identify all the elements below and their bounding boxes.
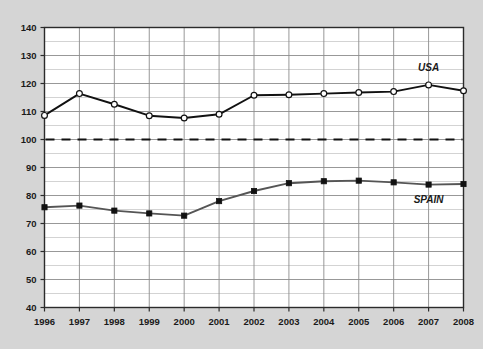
y-axis-tick-label: 140	[21, 22, 37, 33]
data-point-spain-2001	[216, 199, 221, 204]
y-axis-tick-label: 90	[26, 162, 37, 173]
data-point-usa-2001	[216, 111, 222, 117]
y-axis-tick-label: 60	[26, 246, 37, 257]
data-point-usa-1999	[146, 113, 152, 119]
y-axis-tick-label: 40	[26, 302, 37, 313]
data-point-spain-1996	[42, 205, 47, 210]
data-point-usa-2008	[461, 88, 467, 94]
y-axis-tick-label: 70	[26, 218, 37, 229]
data-point-usa-2003	[286, 92, 292, 98]
x-axis-tick-label: 1998	[104, 316, 125, 327]
data-point-usa-2007	[426, 82, 432, 88]
y-axis-tick-label: 50	[26, 274, 37, 285]
x-axis-tick-label: 1997	[69, 316, 90, 327]
x-axis-tick-label: 2005	[348, 316, 370, 327]
x-axis-tick-label: 2008	[453, 316, 474, 327]
x-axis-tick-label: 2003	[278, 316, 299, 327]
data-point-spain-2007	[426, 182, 431, 187]
x-axis-tick-label: 2001	[209, 316, 231, 327]
x-axis-tick-label: 2007	[418, 316, 439, 327]
data-point-usa-2004	[321, 91, 327, 97]
x-axis-tick-label: 2006	[383, 316, 404, 327]
data-point-usa-2005	[356, 90, 362, 96]
y-axis-tick-label: 80	[26, 190, 37, 201]
data-point-spain-1998	[112, 208, 117, 213]
line-chart: 405060708090100110120130140 199619971998…	[0, 0, 483, 349]
data-point-usa-1996	[42, 113, 48, 119]
y-axis-tick-label: 100	[21, 134, 37, 145]
x-axis-tick-label: 2002	[243, 316, 264, 327]
x-axis-tick-label: 1999	[139, 316, 160, 327]
data-point-usa-2002	[251, 92, 257, 98]
data-point-spain-2000	[182, 213, 187, 218]
series-annotation-spain: SPAIN	[414, 194, 445, 205]
data-point-spain-2002	[251, 188, 256, 193]
y-axis-tick-label: 120	[21, 78, 37, 89]
data-point-spain-2006	[391, 180, 396, 185]
data-point-spain-2004	[321, 179, 326, 184]
series-annotation-usa: USA	[418, 62, 439, 73]
chart-container: 405060708090100110120130140 199619971998…	[0, 0, 483, 349]
data-point-usa-2006	[391, 89, 397, 95]
data-point-usa-2000	[181, 115, 187, 121]
data-point-spain-1999	[147, 211, 152, 216]
data-point-spain-1997	[77, 203, 82, 208]
data-point-spain-2003	[286, 181, 291, 186]
y-axis-tick-label: 110	[21, 106, 36, 117]
data-point-spain-2005	[356, 178, 361, 183]
data-point-usa-1998	[111, 101, 117, 107]
x-axis-tick-label: 2004	[313, 316, 335, 327]
x-axis-tick-label: 2000	[174, 316, 195, 327]
y-axis-tick-label: 130	[21, 50, 37, 61]
data-point-spain-2008	[461, 181, 466, 186]
data-point-usa-1997	[77, 91, 83, 97]
x-axis-tick-label: 1996	[34, 316, 55, 327]
